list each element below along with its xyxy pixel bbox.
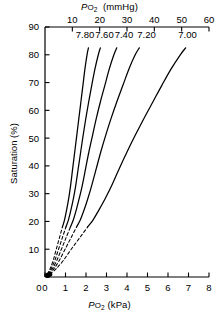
bottom-tick-label: 4 <box>124 282 129 293</box>
bottom-tick-label: 2 <box>83 282 88 293</box>
bottom-tick-label: 3 <box>104 282 109 293</box>
curve-label-ph-7.20: 7.20 <box>137 29 156 40</box>
plot-area: 102030405060 012345678 10203040506070809… <box>0 0 219 317</box>
top-tick-label: 20 <box>94 14 105 25</box>
curve-dashed-ph-7.00 <box>50 227 88 274</box>
bottom-tick-label: 5 <box>145 282 150 293</box>
dissociation-curves-solid <box>62 48 185 227</box>
left-tick-label: 20 <box>28 216 39 227</box>
bottom-tick-label: 7 <box>186 282 191 293</box>
top-axis-tick-labels: 102030405060 <box>67 14 214 25</box>
left-tick-label: 60 <box>28 105 39 116</box>
left-tick-label: 50 <box>28 133 39 144</box>
top-tick-label: 10 <box>67 14 78 25</box>
left-tick-label: 10 <box>28 244 39 255</box>
curve-label-ph-7.60: 7.60 <box>95 29 114 40</box>
left-tick-label: 90 <box>28 21 39 32</box>
top-tick-label: 40 <box>149 14 160 25</box>
origin-tick-label: 0 <box>36 282 41 293</box>
curve-dashed-ph-7.80 <box>47 227 62 274</box>
top-tick-label: 30 <box>122 14 133 25</box>
left-tick-label: 30 <box>28 188 39 199</box>
curve-solid-ph-7.60 <box>66 48 100 227</box>
bottom-tick-label: 8 <box>206 282 211 293</box>
left-tick-label: 40 <box>28 160 39 171</box>
bottom-tick-label: 0 <box>42 282 47 293</box>
bottom-axis-tick-labels: 012345678 <box>42 282 211 293</box>
left-tick-label: 70 <box>28 77 39 88</box>
top-tick-label: 50 <box>176 14 187 25</box>
left-tick-label: 80 <box>28 49 39 60</box>
curve-solid-ph-7.80 <box>62 48 88 227</box>
bottom-axis-ticks <box>45 273 209 278</box>
left-axis-ticks <box>45 27 50 249</box>
dissociation-curves-dashed <box>47 227 87 274</box>
y-axis-title: Saturation (%) <box>8 94 19 214</box>
curve-label-ph-7.40: 7.40 <box>115 29 134 40</box>
top-tick-label: 60 <box>204 14 215 25</box>
bottom-axis-title: PO2 (kPa) <box>0 299 219 311</box>
bottom-tick-label: 6 <box>165 282 170 293</box>
bottom-tick-label: 1 <box>63 282 68 293</box>
curve-solid-ph-7.00 <box>88 48 186 227</box>
oxygen-dissociation-figure: PO2 (mmHg) 102030405060 012345678 102030… <box>0 0 219 317</box>
curve-label-ph-7.80: 7.80 <box>76 29 95 40</box>
bottom-axis-title-units: (kPa) <box>108 299 131 310</box>
curve-label-ph-7.00: 7.00 <box>178 29 197 40</box>
left-axis-tick-labels: 1020304050607080900 <box>28 21 41 293</box>
curve-ph-labels: 7.807.607.407.207.00 <box>76 29 197 40</box>
bottom-axis-title-subscript: 2 <box>101 304 105 311</box>
